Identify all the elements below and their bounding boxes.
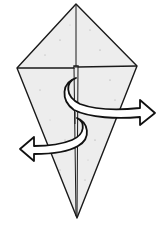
origami-diagram: Kite base with squash folds: two curved … [0,0,163,229]
diagram-canvas [0,0,163,229]
